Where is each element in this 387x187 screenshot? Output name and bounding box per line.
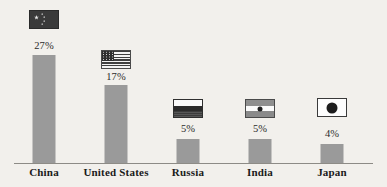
star-small-icon	[41, 13, 43, 15]
category-label-japan: Japan	[317, 166, 347, 178]
stripe-red	[174, 111, 202, 117]
star-small-icon	[43, 20, 45, 22]
bar-value-label: 17%	[106, 72, 126, 83]
stripe-green	[246, 111, 274, 117]
flag-japan-icon	[317, 98, 347, 117]
star-large-icon	[34, 15, 39, 20]
bar-group-china: 27% China	[7, 0, 81, 187]
bar-chart: 27% China 17% United States 5% Russia	[0, 0, 387, 187]
category-label-united-states: United States	[83, 166, 148, 178]
chakra-icon	[258, 106, 263, 111]
bar-rect	[249, 139, 272, 163]
flag-united-states-icon	[101, 50, 131, 69]
flag-india-icon	[245, 99, 275, 118]
bar-value-label: 5%	[253, 124, 267, 135]
bar-value-label: 5%	[181, 124, 195, 135]
canton	[102, 51, 114, 61]
flag-china-icon	[29, 10, 59, 29]
bar-rect	[177, 139, 200, 163]
bar-value-label: 27%	[34, 41, 54, 52]
bar-group-united-states: 17% United States	[79, 0, 153, 187]
star-small-icon	[43, 16, 45, 18]
plot-area: 27% China 17% United States 5% Russia	[0, 0, 387, 187]
sun-disc-icon	[327, 102, 338, 113]
category-label-russia: Russia	[172, 166, 204, 178]
bar-group-russia: 5% Russia	[151, 0, 225, 187]
bar-rect	[33, 55, 56, 163]
bar-rect	[321, 144, 344, 163]
bar-value-label: 4%	[325, 129, 339, 140]
flag-russia-icon	[173, 99, 203, 118]
bar-group-japan: 4% Japan	[295, 0, 369, 187]
bar-group-india: 5% India	[223, 0, 297, 187]
category-label-china: China	[29, 166, 59, 178]
bar-rect	[105, 85, 128, 163]
category-label-india: India	[247, 166, 273, 178]
star-small-icon	[41, 23, 43, 25]
